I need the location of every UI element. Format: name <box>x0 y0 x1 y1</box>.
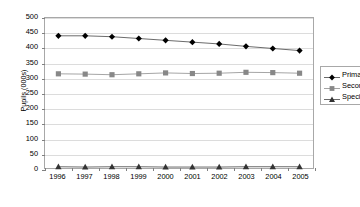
data-point-marker <box>217 71 222 76</box>
y-axis-tick-labels: 050100150200250300350400450500 <box>0 0 42 207</box>
y-tick-label: 50 <box>30 150 38 157</box>
y-tick-label: 100 <box>26 135 38 142</box>
legend-label: Primary <box>341 70 360 79</box>
y-tick-label: 450 <box>26 28 38 35</box>
data-point-marker <box>243 43 249 49</box>
x-tick-label: 2000 <box>157 172 173 181</box>
x-tick-label: 2001 <box>184 172 200 181</box>
line-chart: Pupils (000s) 05010015020025030035040045… <box>0 0 360 207</box>
x-tick-label: 2003 <box>238 172 254 181</box>
square-marker-icon <box>323 80 341 91</box>
x-tick-label: 1996 <box>49 172 65 181</box>
diamond-marker-icon <box>323 69 341 80</box>
triangle-marker-icon <box>323 91 341 102</box>
data-point-marker <box>109 34 115 40</box>
x-axis-tick-labels: 1996199719981999200020012002200320042005 <box>44 172 314 190</box>
plot-area <box>44 17 314 169</box>
x-tick-label: 1999 <box>130 172 146 181</box>
x-tick-label: 2005 <box>292 172 308 181</box>
y-tick-label: 350 <box>26 59 38 66</box>
data-point-marker <box>243 70 248 75</box>
data-point-marker <box>83 72 88 77</box>
data-point-marker <box>190 71 195 76</box>
y-tick-label: 300 <box>26 74 38 81</box>
data-point-marker <box>163 70 168 75</box>
x-tick-label: 1998 <box>103 172 119 181</box>
chart-legend: PrimarySecondarySpecial <box>320 66 360 105</box>
legend-item-special[interactable]: Special <box>323 91 360 102</box>
data-point-marker <box>136 71 141 76</box>
legend-item-secondary[interactable]: Secondary <box>323 80 360 91</box>
data-point-marker <box>270 70 275 75</box>
data-point-marker <box>82 33 88 39</box>
data-point-marker <box>270 45 276 51</box>
y-tick-label: 0 <box>34 165 38 172</box>
data-point-marker <box>163 37 169 43</box>
series-primary <box>55 33 302 54</box>
legend-label: Special <box>341 92 360 101</box>
series-special <box>55 164 303 170</box>
series-line <box>58 72 299 74</box>
data-point-marker <box>136 35 142 41</box>
y-tick-label: 250 <box>26 89 38 96</box>
y-tick-label: 200 <box>26 104 38 111</box>
x-tick-label: 2004 <box>265 172 281 181</box>
data-point-marker <box>109 72 114 77</box>
y-tick-label: 150 <box>26 120 38 127</box>
x-tick-mark <box>315 168 316 171</box>
series-line <box>58 36 299 51</box>
y-tick-label: 400 <box>26 44 38 51</box>
data-point-marker <box>55 33 61 39</box>
y-tick-label: 500 <box>26 13 38 20</box>
data-point-marker <box>56 71 61 76</box>
legend-label: Secondary <box>341 81 360 90</box>
data-point-marker <box>296 48 302 54</box>
data-point-marker <box>297 71 302 76</box>
series-secondary <box>56 70 302 78</box>
data-point-marker <box>216 41 222 47</box>
data-point-marker <box>189 39 195 45</box>
series-layer <box>45 18 313 169</box>
x-tick-label: 1997 <box>76 172 92 181</box>
x-tick-label: 2002 <box>211 172 227 181</box>
legend-item-primary[interactable]: Primary <box>323 69 360 80</box>
